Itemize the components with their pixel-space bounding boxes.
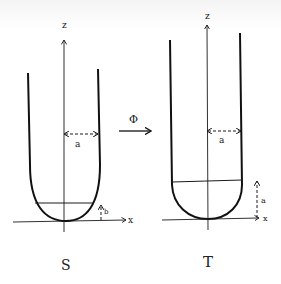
t-z-axis — [207, 25, 208, 230]
s-z-label: z — [62, 20, 67, 30]
t-radius-label: a — [219, 135, 225, 145]
s-radius-label: a — [75, 139, 81, 149]
diagram-svg: z a b x S Φ z a a x T — [0, 0, 281, 284]
t-outline — [170, 33, 242, 219]
diagram-canvas: z a b x S Φ z a a x T — [0, 0, 281, 284]
t-z-label: z — [205, 11, 210, 21]
surface-s — [13, 40, 126, 232]
t-level-line — [172, 180, 242, 182]
t-name-label: T — [203, 253, 213, 271]
t-height-label: a — [261, 196, 266, 205]
map-label: Φ — [129, 113, 138, 126]
s-x-label: x — [128, 215, 133, 225]
t-x-label: x — [263, 214, 268, 223]
s-name-label: S — [61, 257, 71, 273]
s-height-label: b — [104, 208, 109, 216]
surface-t — [162, 25, 259, 230]
